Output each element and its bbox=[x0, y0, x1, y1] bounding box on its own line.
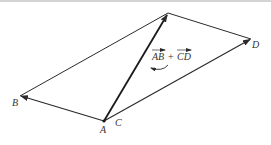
label-a: A bbox=[99, 124, 107, 135]
point-a-dot bbox=[102, 119, 105, 122]
annotation-plus: + bbox=[168, 51, 174, 62]
annotation-pointer bbox=[151, 65, 168, 69]
label-d: D bbox=[251, 39, 260, 50]
vector-diagram: A B C D AB + CD bbox=[0, 0, 271, 145]
annotation-ab: AB bbox=[151, 51, 164, 62]
vector-ab bbox=[21, 96, 104, 121]
label-c: C bbox=[115, 117, 122, 128]
edge-b-to-top bbox=[20, 13, 168, 96]
sum-annotation: AB + CD bbox=[151, 50, 192, 62]
edge-top-to-d bbox=[168, 13, 251, 39]
annotation-cd: CD bbox=[177, 51, 192, 62]
label-b: B bbox=[12, 97, 18, 108]
